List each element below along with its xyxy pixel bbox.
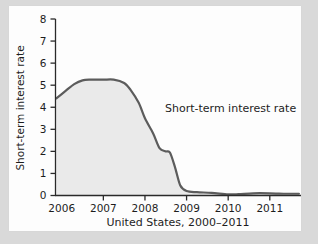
y-tick-label: 4 <box>40 101 47 113</box>
y-tick-label: 5 <box>40 79 47 91</box>
x-tick-label: 2011 <box>256 202 283 214</box>
x-axis-tick-labels: 200620072008200920102011 <box>48 202 283 214</box>
plot-area <box>56 79 299 195</box>
y-tick-label: 2 <box>40 145 47 157</box>
series-annotation-label: Short-term interest rate <box>165 102 296 115</box>
x-axis-ticks <box>103 196 269 201</box>
short-term-interest-rate-chart: 012345678 200620072008200920102011 Short… <box>0 0 318 244</box>
y-tick-label: 8 <box>40 13 47 25</box>
x-tick-label: 2007 <box>90 202 117 214</box>
y-tick-label: 3 <box>40 123 47 135</box>
x-tick-label: 2009 <box>173 202 200 214</box>
y-tick-label: 6 <box>40 57 47 69</box>
x-tick-label: 2010 <box>215 202 242 214</box>
y-axis-title: Short-term interest rate <box>14 45 26 170</box>
x-axis-caption: United States, 2000–2011 <box>107 216 250 229</box>
y-tick-label: 7 <box>40 35 47 47</box>
x-tick-label: 2006 <box>48 202 75 214</box>
y-tick-label: 1 <box>40 167 47 179</box>
y-tick-label: 0 <box>40 189 47 201</box>
y-axis-ticks <box>51 19 56 196</box>
y-axis-tick-labels: 012345678 <box>40 13 47 202</box>
x-tick-label: 2008 <box>132 202 159 214</box>
